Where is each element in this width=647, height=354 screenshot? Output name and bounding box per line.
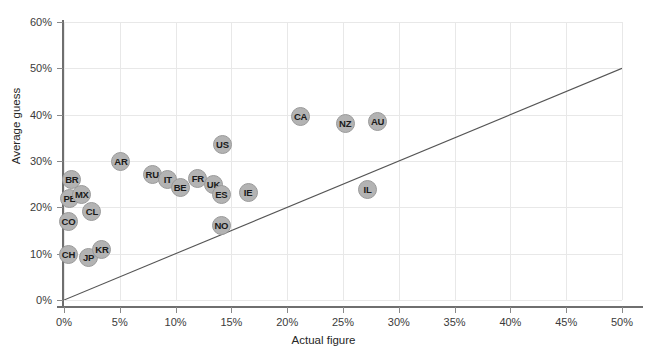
x-tick-mark bbox=[343, 307, 344, 313]
x-tick-label: 10% bbox=[151, 316, 201, 328]
data-point-cl[interactable]: CL bbox=[82, 202, 101, 221]
x-tick-label: 25% bbox=[318, 316, 368, 328]
x-tick-mark bbox=[622, 307, 623, 313]
data-point-co[interactable]: CO bbox=[59, 212, 78, 231]
scatter-chart: 0%10%20%30%40%50%60% 0%5%10%15%20%25%30%… bbox=[0, 0, 647, 354]
x-tick-label: 30% bbox=[374, 316, 424, 328]
y-tick-label: 0% bbox=[2, 294, 52, 306]
data-point-no[interactable]: NO bbox=[212, 216, 231, 235]
data-point-ch[interactable]: CH bbox=[59, 245, 78, 264]
data-point-nz[interactable]: NZ bbox=[336, 114, 355, 133]
y-tick-mark bbox=[57, 300, 63, 301]
data-point-be[interactable]: BE bbox=[171, 178, 190, 197]
gridline-vertical bbox=[622, 22, 623, 300]
y-tick-mark bbox=[57, 115, 63, 116]
gridline-horizontal bbox=[64, 300, 622, 301]
plot-area: BRPEMXCLCOCHJPKRARRUITBEFRUKESUSIENOCANZ… bbox=[64, 22, 622, 300]
x-axis-label: Actual figure bbox=[0, 334, 647, 346]
x-axis-line bbox=[57, 306, 643, 308]
y-tick-mark bbox=[57, 161, 63, 162]
x-tick-label: 5% bbox=[95, 316, 145, 328]
y-tick-label: 20% bbox=[2, 201, 52, 213]
x-tick-label: 20% bbox=[262, 316, 312, 328]
y-tick-label: 10% bbox=[2, 248, 52, 260]
x-tick-mark bbox=[455, 307, 456, 313]
y-tick-mark bbox=[57, 22, 63, 23]
data-point-ie[interactable]: IE bbox=[239, 183, 258, 202]
y-tick-label: 60% bbox=[2, 16, 52, 28]
data-point-au[interactable]: AU bbox=[368, 112, 387, 131]
x-tick-label: 40% bbox=[485, 316, 535, 328]
data-point-il[interactable]: IL bbox=[358, 180, 377, 199]
x-tick-mark bbox=[287, 307, 288, 313]
x-tick-mark bbox=[231, 307, 232, 313]
x-tick-mark bbox=[64, 307, 65, 313]
y-tick-mark bbox=[57, 68, 63, 69]
x-tick-label: 0% bbox=[39, 316, 89, 328]
x-tick-mark bbox=[399, 307, 400, 313]
y-axis-label: Average guess bbox=[10, 66, 22, 186]
x-tick-mark bbox=[176, 307, 177, 313]
data-point-ar[interactable]: AR bbox=[111, 152, 130, 171]
y-tick-mark bbox=[57, 207, 63, 208]
data-point-ca[interactable]: CA bbox=[291, 107, 310, 126]
x-tick-mark bbox=[510, 307, 511, 313]
x-tick-label: 45% bbox=[541, 316, 591, 328]
data-point-es[interactable]: ES bbox=[212, 185, 231, 204]
data-point-kr[interactable]: KR bbox=[92, 240, 111, 259]
x-tick-mark bbox=[566, 307, 567, 313]
data-point-us[interactable]: US bbox=[213, 135, 232, 154]
x-tick-label: 35% bbox=[430, 316, 480, 328]
x-tick-mark bbox=[120, 307, 121, 313]
x-tick-label: 15% bbox=[206, 316, 256, 328]
x-tick-label: 50% bbox=[597, 316, 647, 328]
